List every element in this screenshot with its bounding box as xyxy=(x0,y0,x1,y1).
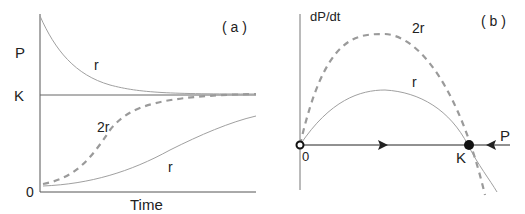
label-decay-r: r xyxy=(94,57,99,73)
logistic-curve-2r xyxy=(43,94,256,184)
panel-b: ( b ) dP/dt P 0 K 2r r xyxy=(297,9,511,195)
parabola-2r xyxy=(300,34,485,195)
panel-a-zero-label: 0 xyxy=(26,184,34,200)
panel-a-k-label: K xyxy=(14,87,24,104)
panel-b-y-label: dP/dt xyxy=(310,9,341,24)
panel-b-zero-label: 0 xyxy=(302,149,309,164)
panel-b-tag: ( b ) xyxy=(481,13,506,29)
logistic-growth-figure: ( a ) P K 0 Time r 2r r ( b ) dP/dt P 0 … xyxy=(0,0,525,214)
label-logistic-r: r xyxy=(168,159,173,175)
panel-a: ( a ) P K 0 Time r 2r r xyxy=(14,14,256,213)
panel-a-y-label: P xyxy=(15,44,25,61)
panel-a-tag: ( a ) xyxy=(222,19,247,35)
unstable-equilibrium-point xyxy=(297,142,304,149)
label-parabola-r: r xyxy=(412,74,417,90)
panel-b-k-label: K xyxy=(456,149,466,166)
logistic-curve-r xyxy=(43,116,256,186)
label-logistic-2r: 2r xyxy=(97,119,110,135)
panel-a-x-label: Time xyxy=(130,196,163,213)
label-parabola-2r: 2r xyxy=(412,20,425,36)
panel-b-x-label: P xyxy=(500,127,510,144)
